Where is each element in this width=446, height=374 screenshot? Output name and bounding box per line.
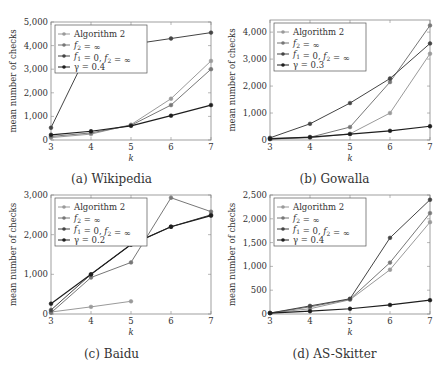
data-point bbox=[388, 77, 392, 81]
x-tick-label: 4 bbox=[88, 142, 93, 152]
data-point bbox=[308, 309, 312, 313]
y-axis-label: mean number of checks bbox=[227, 203, 237, 306]
legend-label: Algorithm 2 bbox=[73, 202, 125, 212]
data-point bbox=[209, 214, 213, 218]
x-axis-label: k bbox=[347, 327, 352, 337]
x-tick-label: 3 bbox=[48, 316, 53, 326]
chart-panel-c: 01,0002,0003,00034567kmean number of che… bbox=[8, 190, 214, 337]
y-tick-label: 3,000 bbox=[243, 54, 267, 64]
legend-label: Algorithm 2 bbox=[292, 27, 344, 37]
chart-panel-b: 01,0002,0003,0004,00034567kmean number o… bbox=[227, 20, 433, 163]
legend: Algorithm 2f2 = ∞f1 = 0, f2 = ∞γ = 0.4 bbox=[55, 25, 147, 73]
data-point bbox=[169, 114, 173, 118]
y-tick-label: 4,000 bbox=[243, 27, 267, 37]
y-tick-label: 2,000 bbox=[24, 230, 48, 240]
y-tick-label: 3,000 bbox=[24, 190, 48, 200]
x-tick-label: 7 bbox=[208, 316, 213, 326]
x-tick-label: 5 bbox=[128, 316, 133, 326]
y-tick-label: 3,000 bbox=[24, 64, 48, 74]
chart-caption-c: (c) Baidu bbox=[0, 347, 223, 361]
data-point bbox=[428, 211, 432, 215]
data-point bbox=[308, 135, 312, 139]
y-axis-label: mean number of checks bbox=[8, 203, 18, 306]
x-tick-label: 5 bbox=[347, 316, 352, 326]
y-tick-label: 1,500 bbox=[243, 238, 267, 248]
data-point bbox=[348, 125, 352, 129]
data-point bbox=[49, 133, 53, 137]
legend: Algorithm 2f2 = ∞f1 = 0, f2 = ∞γ = 0.4 bbox=[274, 198, 366, 246]
y-tick-label: 2,000 bbox=[243, 214, 267, 224]
x-tick-label: 7 bbox=[427, 316, 432, 326]
series-line bbox=[49, 103, 213, 137]
x-axis-label: k bbox=[347, 153, 352, 163]
x-tick-label: 6 bbox=[168, 316, 173, 326]
y-tick-label: 2,000 bbox=[243, 81, 267, 91]
chart-caption-d: (d) AS-Skitter bbox=[223, 347, 446, 361]
data-point bbox=[209, 103, 213, 107]
data-point bbox=[428, 298, 432, 302]
x-tick-label: 5 bbox=[347, 142, 352, 152]
legend: Algorithm 2f2 = ∞f1 = 0, f2 = ∞γ = 0.2 bbox=[55, 198, 147, 246]
legend-label: γ = 0.4 bbox=[293, 235, 324, 245]
data-point bbox=[428, 52, 432, 56]
data-point bbox=[169, 37, 173, 41]
y-tick-label: 1,000 bbox=[24, 269, 48, 279]
legend: Algorithm 2f2 = ∞f1 = 0, f2 = ∞γ = 0.3 bbox=[274, 23, 366, 71]
y-tick-label: 0 bbox=[43, 135, 48, 145]
y-tick-label: 0 bbox=[43, 309, 48, 319]
data-point bbox=[388, 268, 392, 272]
x-tick-label: 6 bbox=[387, 316, 392, 326]
data-point bbox=[348, 132, 352, 136]
x-tick-label: 4 bbox=[88, 316, 93, 326]
data-point bbox=[129, 261, 133, 265]
data-point bbox=[388, 111, 392, 115]
data-point bbox=[89, 305, 93, 309]
data-point bbox=[49, 308, 53, 312]
y-axis-label: mean number of checks bbox=[227, 28, 237, 131]
x-tick-label: 6 bbox=[168, 142, 173, 152]
x-axis-label: k bbox=[128, 327, 133, 337]
y-tick-label: 0 bbox=[262, 135, 267, 145]
data-point bbox=[428, 198, 432, 202]
y-tick-label: 2,000 bbox=[24, 88, 48, 98]
legend-label: γ = 0.3 bbox=[293, 60, 324, 70]
data-point bbox=[388, 261, 392, 265]
data-point bbox=[49, 126, 53, 130]
chart-caption-a: (a) Wikipedia bbox=[0, 172, 223, 186]
data-point bbox=[169, 225, 173, 229]
data-point bbox=[348, 101, 352, 105]
y-tick-label: 2,500 bbox=[243, 190, 267, 200]
data-point bbox=[129, 299, 133, 303]
x-tick-label: 7 bbox=[427, 142, 432, 152]
data-point bbox=[89, 129, 93, 133]
x-tick-label: 6 bbox=[387, 142, 392, 152]
data-point bbox=[209, 67, 213, 71]
legend-label: Algorithm 2 bbox=[73, 29, 125, 39]
data-point bbox=[129, 124, 133, 128]
y-axis-label: mean number of checks bbox=[8, 29, 18, 132]
data-point bbox=[89, 272, 93, 276]
x-tick-label: 5 bbox=[128, 142, 133, 152]
y-tick-label: 4,000 bbox=[24, 41, 48, 51]
data-point bbox=[428, 220, 432, 224]
data-point bbox=[388, 129, 392, 133]
y-tick-label: 500 bbox=[251, 285, 267, 295]
x-tick-label: 4 bbox=[307, 142, 312, 152]
x-axis-label: k bbox=[128, 153, 133, 163]
y-tick-label: 0 bbox=[262, 309, 267, 319]
data-point bbox=[308, 304, 312, 308]
data-point bbox=[428, 42, 432, 46]
data-point bbox=[308, 122, 312, 126]
data-point bbox=[348, 297, 352, 301]
x-tick-label: 4 bbox=[307, 316, 312, 326]
data-point bbox=[169, 196, 173, 200]
x-tick-label: 3 bbox=[48, 142, 53, 152]
y-tick-label: 5,000 bbox=[24, 17, 48, 27]
data-point bbox=[169, 103, 173, 107]
x-tick-label: 7 bbox=[208, 142, 213, 152]
data-point bbox=[348, 307, 352, 311]
legend-label: Algorithm 2 bbox=[292, 202, 344, 212]
y-tick-label: 1,000 bbox=[243, 108, 267, 118]
chart-panel-a: 01,0002,0003,0004,0005,00034567kmean num… bbox=[8, 17, 214, 163]
x-tick-label: 3 bbox=[267, 142, 272, 152]
